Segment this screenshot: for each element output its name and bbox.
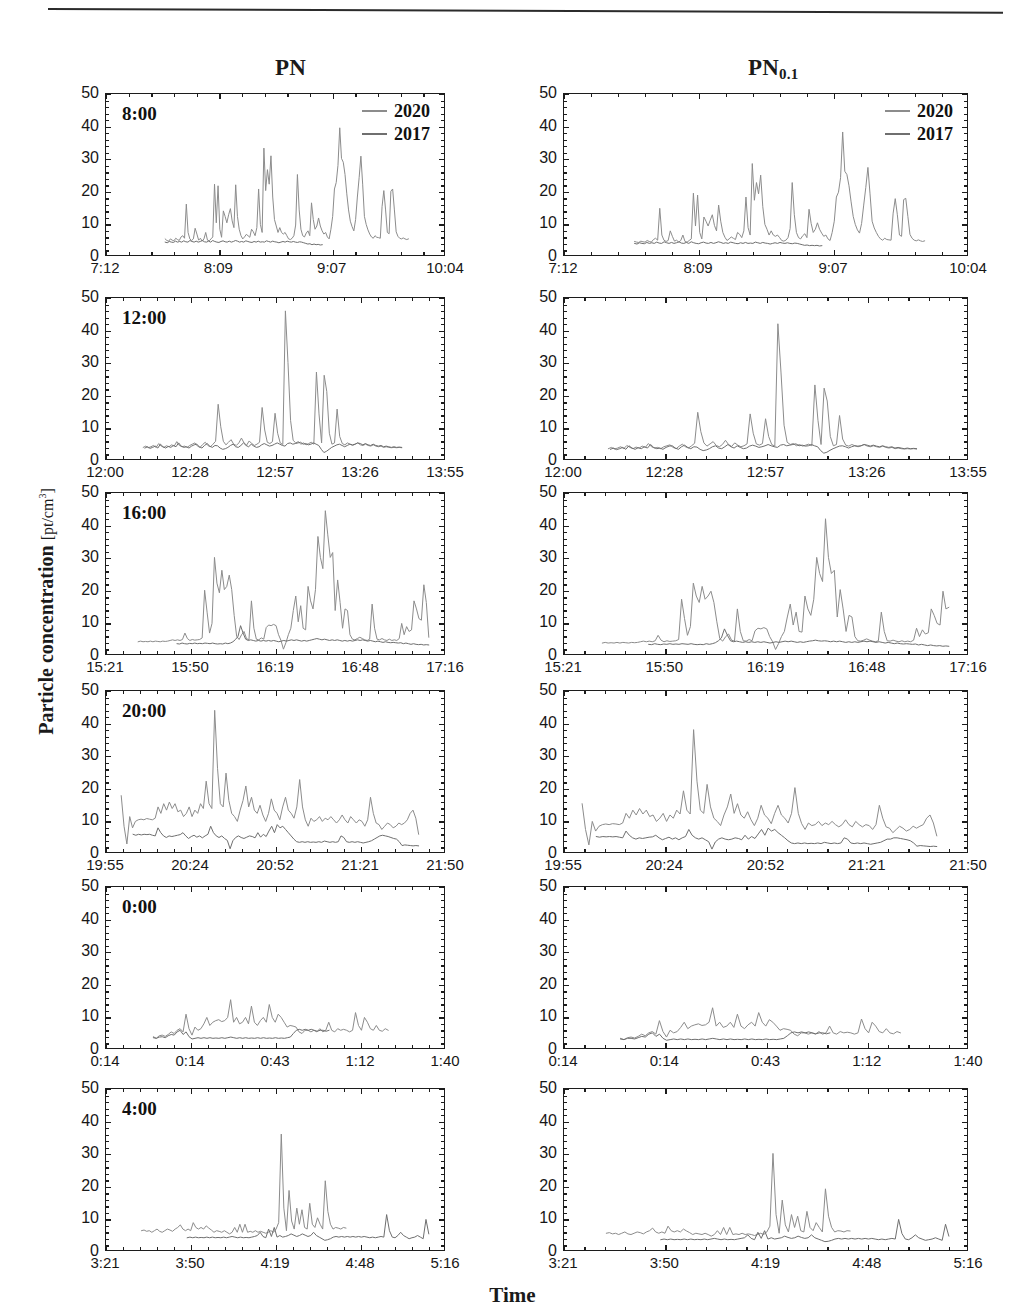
x-tick-mark-minor xyxy=(807,651,808,654)
y-tick-mark xyxy=(106,1187,111,1188)
x-tick-mark-minor xyxy=(225,298,226,301)
x-tick-mark-minor xyxy=(807,1089,808,1092)
y-tick-mark-minor xyxy=(564,1161,567,1162)
x-tick-mark-minor xyxy=(888,651,889,654)
x-tick-mark-minor xyxy=(706,849,707,852)
x-tick-mark xyxy=(276,493,277,498)
legend-line-swatch-2017 xyxy=(885,133,910,135)
y-tick-mark-minor xyxy=(964,389,967,390)
x-tick-label: 12:28 xyxy=(645,463,683,480)
y-tick-mark-minor xyxy=(106,513,109,514)
y-tick-mark xyxy=(439,159,444,160)
x-tick-mark-minor xyxy=(584,493,585,496)
x-tick-mark-minor xyxy=(807,1045,808,1048)
y-tick-mark-minor xyxy=(441,1043,444,1044)
x-tick-mark-minor xyxy=(157,298,158,301)
y-tick-mark xyxy=(106,363,111,364)
x-axis-label: Time xyxy=(0,1283,1025,1308)
y-tick-mark-minor xyxy=(964,415,967,416)
y-tick-mark-minor xyxy=(564,972,567,973)
x-tick-mark-minor xyxy=(429,298,430,301)
x-tick-mark-minor xyxy=(942,94,943,97)
x-tick-mark-minor xyxy=(265,252,266,255)
y-tick-mark-minor xyxy=(441,763,444,764)
x-tick-mark-minor xyxy=(225,456,226,459)
x-tick-mark xyxy=(276,1043,277,1048)
y-tick-mark-minor xyxy=(564,1135,567,1136)
y-tick-label: 30 xyxy=(81,548,99,566)
y-tick-mark-minor xyxy=(564,815,567,816)
y-tick-mark-minor xyxy=(106,211,109,212)
y-tick-mark-minor xyxy=(964,834,967,835)
x-tick-mark-minor xyxy=(140,493,141,496)
y-tick-mark-minor xyxy=(106,350,109,351)
y-tick-mark-minor xyxy=(106,1030,109,1031)
x-tick-mark-minor xyxy=(726,849,727,852)
y-tick-mark-minor xyxy=(106,1128,109,1129)
y-tick-mark-minor xyxy=(441,532,444,533)
x-tick-mark-minor xyxy=(949,1089,950,1092)
x-tick-mark-minor xyxy=(625,651,626,654)
y-tick-mark-minor xyxy=(964,776,967,777)
y-tick-mark-minor xyxy=(964,730,967,731)
y-tick-mark xyxy=(106,1122,111,1123)
column-title-pn-text: PN xyxy=(275,55,306,80)
y-tick-mark xyxy=(106,192,111,193)
legend-label-2020: 2020 xyxy=(917,102,953,120)
time-slot-label-pn-1600: 16:00 xyxy=(122,502,166,524)
x-tick-mark xyxy=(276,454,277,459)
y-tick-mark-minor xyxy=(964,237,967,238)
x-tick-mark-minor xyxy=(625,849,626,852)
y-tick-mark-minor xyxy=(564,324,567,325)
y-tick-mark-minor xyxy=(964,140,967,141)
y-tick-mark-minor xyxy=(106,717,109,718)
x-tick-label: 0:43 xyxy=(751,1052,780,1069)
y-tick-mark-minor xyxy=(564,532,567,533)
x-tick-mark-minor xyxy=(787,1247,788,1250)
y-tick-mark-minor xyxy=(964,808,967,809)
x-tick-mark-minor xyxy=(293,493,294,496)
x-tick-mark-minor xyxy=(310,1089,311,1092)
series-line-2020 xyxy=(153,1000,388,1039)
y-tick-mark-minor xyxy=(106,643,109,644)
y-tick-mark-minor xyxy=(441,389,444,390)
y-tick-mark-minor xyxy=(106,172,109,173)
y-tick-mark-minor xyxy=(964,218,967,219)
y-tick-mark-minor xyxy=(564,743,567,744)
x-tick-mark xyxy=(361,1089,362,1094)
y-tick-mark-minor xyxy=(964,552,967,553)
y-tick-mark-minor xyxy=(441,454,444,455)
x-tick-mark-minor xyxy=(140,1247,141,1250)
y-tick-mark-minor xyxy=(964,532,967,533)
y-tick-label: 40 xyxy=(539,321,557,339)
x-tick-mark-minor xyxy=(225,691,226,694)
x-tick-mark-minor xyxy=(310,887,311,890)
x-tick-mark-minor xyxy=(848,1089,849,1092)
y-tick-mark-minor xyxy=(564,318,567,319)
y-tick-mark-minor xyxy=(964,795,967,796)
y-tick-mark-minor xyxy=(564,730,567,731)
panel-pn-1200: 12:000102030405012:0012:2812:5713:2613:5… xyxy=(105,297,445,460)
y-tick-mark-minor xyxy=(964,913,967,914)
x-tick-mark xyxy=(868,493,869,498)
y-tick-mark xyxy=(564,985,569,986)
y-tick-mark-minor xyxy=(564,237,567,238)
y-tick-mark-minor xyxy=(964,1200,967,1201)
x-tick-mark xyxy=(276,847,277,852)
x-tick-mark-minor xyxy=(140,1089,141,1092)
y-tick-mark-minor xyxy=(106,539,109,540)
y-tick-mark-minor xyxy=(441,211,444,212)
y-tick-mark-minor xyxy=(964,513,967,514)
y-tick-mark xyxy=(564,558,569,559)
y-tick-mark-minor xyxy=(564,711,567,712)
x-tick-mark-minor xyxy=(401,94,402,97)
y-tick-mark-minor xyxy=(106,946,109,947)
y-tick-mark-minor xyxy=(564,769,567,770)
y-tick-mark xyxy=(962,363,967,364)
y-tick-label: 40 xyxy=(539,1112,557,1130)
x-tick-mark xyxy=(868,1245,869,1250)
y-tick-mark-minor xyxy=(564,376,567,377)
plot-area-pn-1600: 16:00 xyxy=(105,492,445,655)
y-tick-label: 10 xyxy=(539,214,557,232)
x-tick-mark-minor xyxy=(140,691,141,694)
